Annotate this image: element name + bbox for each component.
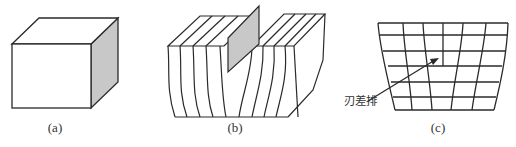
caption-c: (c) — [431, 120, 445, 136]
caption-a: (a) — [48, 120, 62, 136]
edge-dislocation-label: 刃差排 — [344, 92, 377, 108]
cube-diagram — [0, 0, 172, 130]
panel-a: (a) — [0, 0, 172, 147]
panel-c: 刃差排 (c) — [340, 0, 516, 147]
caption-b: (b) — [227, 120, 242, 136]
lattice-grid-diagram — [340, 0, 516, 130]
panel-b: (b) — [160, 0, 340, 147]
arrow-head-icon — [430, 58, 439, 65]
half-plane-diagram — [160, 0, 340, 130]
